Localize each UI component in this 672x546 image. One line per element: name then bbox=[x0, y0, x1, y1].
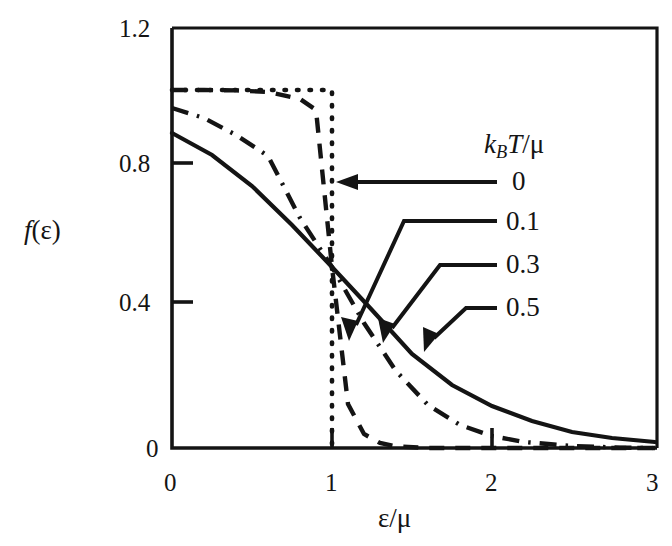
series-curve-0p3 bbox=[172, 108, 655, 448]
legend-title: kBT/μ bbox=[484, 131, 544, 162]
series-curve-0p1 bbox=[172, 90, 655, 448]
annotation-arrow-0p5 bbox=[423, 308, 497, 352]
legend-title-k: k bbox=[484, 129, 496, 159]
y-axis-ticks bbox=[172, 163, 193, 302]
x-tick-label-2: 2 bbox=[485, 470, 498, 495]
legend-entry-label-0: 0 bbox=[512, 168, 526, 195]
y-tick-label-0: 0 bbox=[146, 436, 159, 461]
y-tick-label-0p4: 0.4 bbox=[119, 290, 150, 315]
x-tick-label-1: 1 bbox=[325, 470, 338, 495]
x-axis-title-slash: / bbox=[389, 503, 397, 533]
x-tick-label-0: 0 bbox=[164, 470, 177, 495]
y-axis-title-open: ( bbox=[32, 215, 41, 245]
legend-title-mu: μ bbox=[530, 129, 544, 159]
legend-entry-label-0p5: 0.5 bbox=[506, 294, 540, 321]
annotation-arrow-0 bbox=[336, 174, 497, 190]
axes-frame bbox=[172, 28, 657, 448]
fermi-dirac-figure: 1.2 0.8 0.4 0 0 1 2 3 f(ε) ε/μ kBT/μ 0 0… bbox=[0, 0, 672, 546]
legend-entry-label-0p1: 0.1 bbox=[506, 208, 540, 235]
y-axis-title-close: ) bbox=[52, 215, 61, 245]
x-axis-title: ε/μ bbox=[378, 505, 411, 532]
x-axis-title-den: μ bbox=[397, 503, 411, 533]
x-tick-label-3: 3 bbox=[646, 470, 659, 495]
y-axis-title-var: ε bbox=[41, 215, 52, 245]
y-axis-title: f(ε) bbox=[24, 217, 61, 244]
series-curve-0p5 bbox=[172, 133, 655, 442]
legend-title-slash: / bbox=[522, 129, 530, 159]
x-axis-title-num: ε bbox=[378, 503, 389, 533]
legend-entry-label-0p3: 0.3 bbox=[506, 251, 540, 278]
y-tick-label-0p8: 0.8 bbox=[119, 151, 150, 176]
y-tick-label-1p2: 1.2 bbox=[119, 16, 150, 41]
legend-title-t: T bbox=[507, 129, 522, 159]
y-axis-title-f: f bbox=[24, 215, 32, 245]
annotation-arrow-0p3 bbox=[378, 265, 497, 343]
plot-canvas bbox=[0, 0, 672, 546]
legend-title-subscript-b: B bbox=[496, 142, 507, 162]
